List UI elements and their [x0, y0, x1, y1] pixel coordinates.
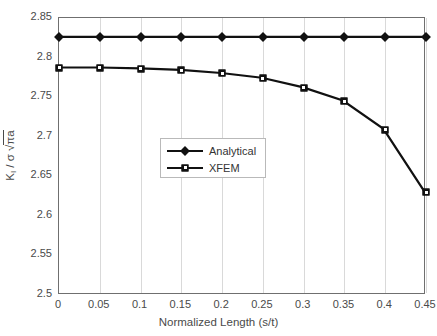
- chart-figure: 2.52.552.62.652.72.752.82.85 00.050.10.1…: [0, 0, 437, 336]
- grid-line: [426, 18, 427, 293]
- legend-marker-diamond-icon: [165, 144, 205, 158]
- x-axis-tick-label: 0.15: [170, 298, 191, 310]
- x-axis-tick-label: 0.4: [377, 298, 392, 310]
- legend-label-analytical: Analytical: [209, 144, 256, 158]
- x-axis-tick-label: 0.35: [333, 298, 354, 310]
- x-axis-tick-label: 0.1: [132, 298, 147, 310]
- y-axis-tick-label: 2.55: [18, 247, 52, 259]
- x-axis-tick-label: 0.3: [295, 298, 310, 310]
- y-axis-tick-label: 2.8: [18, 50, 52, 62]
- x-axis-tick-label: 0.25: [251, 298, 272, 310]
- x-axis-title: Normalized Length (s/t): [0, 316, 437, 328]
- legend-marker-square-icon: [165, 161, 205, 175]
- data-point-xfem: [56, 64, 63, 71]
- legend-entry-analytical: Analytical: [165, 142, 261, 159]
- data-point-xfem: [178, 67, 185, 74]
- y-axis-tick-label: 2.85: [18, 10, 52, 22]
- data-point-xfem: [423, 189, 430, 196]
- y-axis-title-text: KI / σ √πa: [4, 130, 16, 180]
- y-axis-tick-label: 2.6: [18, 208, 52, 220]
- data-point-xfem: [137, 65, 144, 72]
- data-point-xfem: [341, 98, 348, 105]
- legend-entry-xfem: XFEM: [165, 159, 261, 176]
- x-axis-tick-label: 0.45: [414, 298, 435, 310]
- legend-label-xfem: XFEM: [209, 161, 240, 175]
- x-axis-tick-label: 0: [55, 298, 61, 310]
- data-point-xfem: [259, 75, 266, 82]
- y-axis-tick-label: 2.5: [18, 287, 52, 299]
- y-axis-tick-label: 2.65: [18, 168, 52, 180]
- y-axis-tick-label: 2.7: [18, 129, 52, 141]
- data-point-xfem: [96, 64, 103, 71]
- y-axis-tick-label: 2.75: [18, 89, 52, 101]
- x-axis-tick-label: 0.05: [88, 298, 109, 310]
- chart-legend: Analytical XFEM: [160, 138, 266, 178]
- x-axis-tick-label: 0.2: [213, 298, 228, 310]
- data-point-xfem: [300, 84, 307, 91]
- y-axis-title: KI / σ √πa: [4, 17, 22, 294]
- data-point-xfem: [219, 70, 226, 77]
- data-point-xfem: [382, 126, 389, 133]
